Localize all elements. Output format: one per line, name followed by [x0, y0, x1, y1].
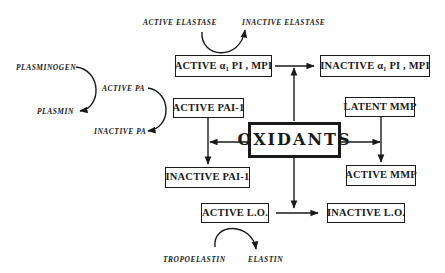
label-active-pa: ACTIVE PA	[102, 84, 145, 93]
box-latent-mmp: LATENT MMP	[345, 97, 415, 117]
plasminogen-to-plasmin-arrow	[76, 67, 96, 111]
label-inactive-elastase: INACTIVE ELASTASE	[242, 18, 325, 27]
diagram-arrows	[0, 0, 445, 273]
pa-inactivation-arrow	[148, 88, 166, 131]
box-active-pai1: ACTIVE PAI-1	[173, 98, 244, 118]
box-inactive-lo: INACTIVE L.O.	[327, 203, 405, 223]
label-elastin: ELASTIN	[248, 255, 283, 264]
box-active-mmp: ACTIVE MMP	[346, 165, 416, 186]
box-inactive-pai1: INACTIVE PAI-1	[165, 167, 250, 188]
box-active-lo: ACTIVE L.O.	[201, 203, 269, 223]
box-inactive-a1pi-mpi: INACTIVE α₁ PI , MPI	[320, 55, 430, 77]
label-plasminogen: PLASMINOGEN	[16, 63, 76, 72]
box-active-a1pi-mpi: ACTIVE α₁ PI , MPI	[175, 55, 272, 77]
tropoelastin-to-elastin-arrow	[215, 228, 256, 249]
label-tropoelastin: TROPOELASTIN	[163, 255, 226, 264]
label-inactive-pa: INACTIVE PA	[94, 127, 146, 136]
box-oxidants: OXIDANTS	[248, 122, 341, 158]
label-active-elastase: ACTIVE ELASTASE	[143, 18, 217, 27]
elastase-inactivation-arrow	[202, 30, 245, 53]
label-plasmin: PLASMIN	[37, 107, 74, 116]
